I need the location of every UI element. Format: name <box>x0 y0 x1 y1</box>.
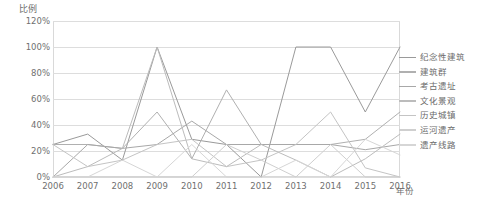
legend-line-icon <box>399 86 416 88</box>
legend-line-icon <box>399 144 416 146</box>
line-chart: 比例 年份 0%20%40%60%80%100%120% 20062007200… <box>0 0 478 221</box>
legend-item[interactable]: 纪念性建筑 <box>399 50 478 65</box>
legend-item[interactable]: 运河遗产 <box>399 123 478 138</box>
legend-item[interactable]: 考古遗址 <box>399 79 478 94</box>
legend-line-icon <box>399 115 416 117</box>
series-line <box>53 145 400 178</box>
legend-label: 遗产线路 <box>420 141 456 150</box>
legend-label: 纪念性建筑 <box>420 53 465 62</box>
legend-line-icon <box>399 100 416 102</box>
legend-item[interactable]: 建筑群 <box>399 65 478 80</box>
legend-label: 建筑群 <box>420 68 447 77</box>
series-line <box>53 90 400 159</box>
legend-label: 运河遗产 <box>420 126 456 135</box>
legend-item[interactable]: 历史城镇 <box>399 108 478 123</box>
legend-line-icon <box>399 57 416 59</box>
legend-line-icon <box>399 129 416 131</box>
legend-label: 考古遗址 <box>420 82 456 91</box>
legend-label: 文化景观 <box>420 97 456 106</box>
legend-line-icon <box>399 71 416 73</box>
chart-legend: 纪念性建筑建筑群考古遗址文化景观历史城镇运河遗产遗产线路 <box>399 50 478 152</box>
legend-item[interactable]: 遗产线路 <box>399 138 478 153</box>
legend-item[interactable]: 文化景观 <box>399 94 478 109</box>
legend-label: 历史城镇 <box>420 111 456 120</box>
